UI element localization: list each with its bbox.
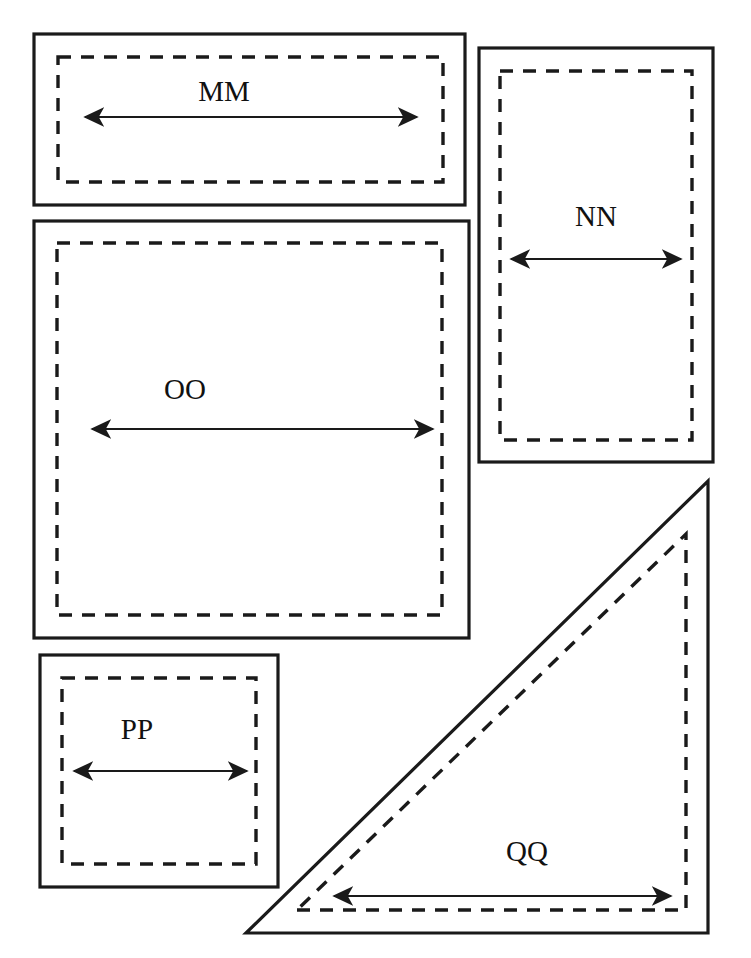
shape-qq-outline	[246, 481, 708, 933]
shape-pp-label: PP	[121, 713, 153, 745]
shape-mm-inner-dashed	[58, 57, 443, 182]
technical-drawing-figure: MM NN OO PP QQ	[0, 0, 751, 958]
shape-qq-label: QQ	[506, 835, 548, 867]
shape-mm-outline	[34, 34, 465, 205]
shape-qq: QQ	[246, 481, 708, 933]
shape-nn-outline	[479, 48, 713, 462]
shape-qq-inner-dashed	[297, 534, 686, 910]
figure-canvas: MM NN OO PP QQ	[0, 0, 751, 958]
shape-nn: NN	[479, 48, 713, 462]
shape-nn-label: NN	[575, 200, 617, 232]
shape-mm: MM	[34, 34, 465, 205]
shape-oo: OO	[34, 221, 469, 638]
shape-oo-label: OO	[164, 373, 206, 405]
shape-mm-label: MM	[198, 75, 250, 107]
shape-nn-inner-dashed	[500, 71, 692, 440]
shape-pp: PP	[40, 655, 278, 887]
